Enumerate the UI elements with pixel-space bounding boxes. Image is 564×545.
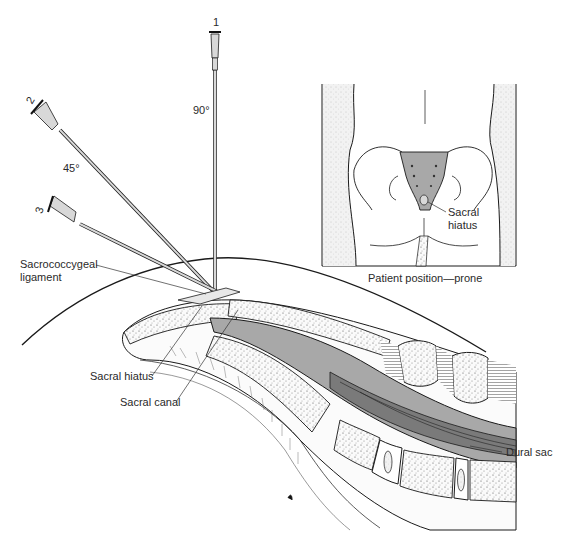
inset-prone-view bbox=[322, 84, 516, 266]
label-dural-sac: Dural sac bbox=[506, 446, 552, 459]
spinous-process-1 bbox=[398, 341, 438, 387]
vertebral-body-3 bbox=[470, 460, 516, 502]
needle-1-angle: 90° bbox=[193, 104, 210, 116]
label-sacrococcygeal-ligament: Sacrococcygeal ligament bbox=[20, 258, 98, 284]
label-sacral-hiatus: Sacral hiatus bbox=[90, 370, 154, 383]
inset-caption: Patient position—prone bbox=[368, 272, 482, 285]
needle-2-angle: 45° bbox=[63, 162, 80, 174]
spinous-process-2 bbox=[452, 352, 488, 403]
label-sacral-canal: Sacral canal bbox=[120, 396, 181, 409]
inset-label-sacral-hiatus: Sacral hiatus bbox=[448, 206, 479, 232]
needle-1 bbox=[209, 32, 221, 292]
needle-1-number: 1 bbox=[213, 16, 219, 28]
